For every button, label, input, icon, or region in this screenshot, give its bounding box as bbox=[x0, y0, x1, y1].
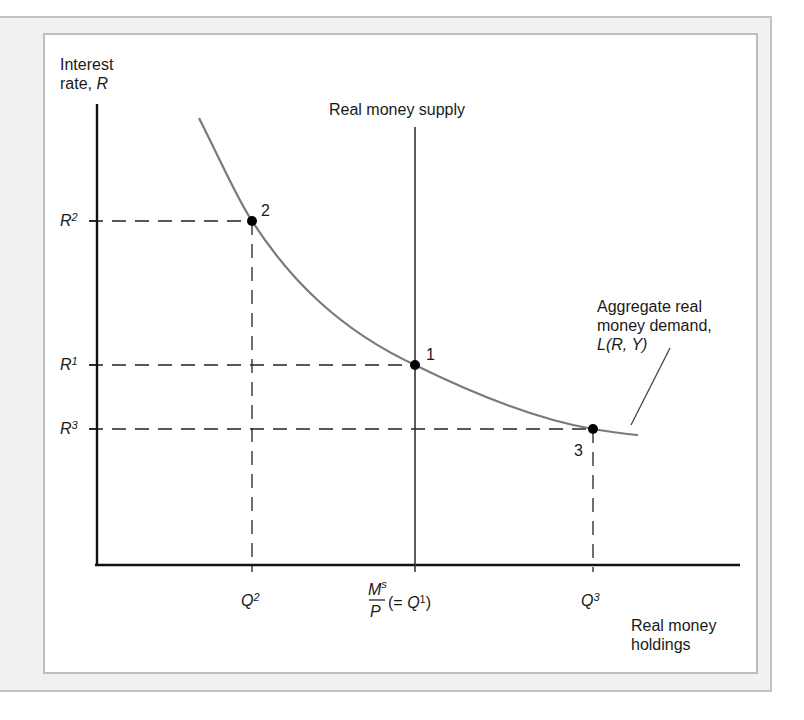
point-3-label: 3 bbox=[574, 441, 583, 460]
tick-ms-den: P bbox=[370, 603, 381, 621]
tick-q2: Q2 bbox=[241, 591, 260, 610]
tick-q1: (= Q1) bbox=[388, 593, 431, 612]
point-1 bbox=[410, 360, 420, 370]
money-demand-label: Aggregate real money demand, L(R, Y) bbox=[597, 297, 712, 354]
money-demand-curve bbox=[199, 118, 638, 435]
tick-ms-num: Ms bbox=[368, 581, 387, 599]
y-axis-label: Interest rate, R bbox=[60, 55, 113, 93]
point-3 bbox=[588, 424, 598, 434]
x-axis-label: Real money holdings bbox=[631, 616, 716, 654]
money-supply-label: Real money supply bbox=[329, 100, 465, 119]
tick-r1: R1 bbox=[60, 355, 78, 374]
tick-r3: R3 bbox=[60, 419, 78, 438]
tick-r2: R2 bbox=[60, 211, 78, 230]
point-2 bbox=[247, 216, 257, 226]
point-2-label: 2 bbox=[261, 201, 270, 220]
demand-leader-line bbox=[631, 348, 670, 425]
guide-lines bbox=[89, 221, 593, 572]
point-1-label: 1 bbox=[426, 345, 435, 364]
tick-q3: Q3 bbox=[581, 591, 600, 610]
